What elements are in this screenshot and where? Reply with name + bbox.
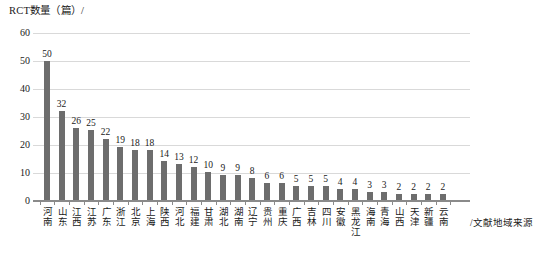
bar-slot[interactable]: 2 [406, 33, 421, 200]
bar[interactable] [323, 186, 329, 200]
bar[interactable] [161, 161, 167, 200]
bar[interactable] [249, 178, 255, 200]
bar-value-label: 2 [440, 182, 445, 192]
bar-slot[interactable]: 3 [362, 33, 377, 200]
y-axis-tick-label: 40 [2, 84, 30, 94]
bar[interactable] [220, 175, 226, 200]
bar-value-label: 3 [382, 180, 387, 190]
bar[interactable] [59, 111, 65, 200]
x-axis-tickmark [421, 201, 422, 205]
x-axis-category-label: 青海 [379, 207, 389, 227]
bar-slot[interactable]: 2 [436, 33, 451, 200]
x-axis-category-label: 北京 [130, 207, 140, 227]
x-axis-tickmark [113, 201, 114, 205]
bar-slot[interactable]: 4 [333, 33, 348, 200]
bar-value-label: 5 [309, 174, 314, 184]
x-axis-category-label: 山东 [57, 207, 67, 227]
bar-slot[interactable]: 8 [245, 33, 260, 200]
x-axis-tickmark [54, 201, 55, 205]
bar-slot[interactable]: 10 [201, 33, 216, 200]
bar[interactable] [205, 172, 211, 200]
bar[interactable] [279, 183, 285, 200]
x-axis-category-label: 上海 [145, 207, 155, 227]
bar-slot[interactable]: 5 [318, 33, 333, 200]
bar-slot[interactable]: 9 [216, 33, 231, 200]
bar-slot[interactable]: 50 [40, 33, 55, 200]
x-axis-tickmark [186, 201, 187, 205]
bar-slot[interactable]: 22 [98, 33, 113, 200]
bar[interactable] [381, 192, 387, 200]
bar[interactable] [176, 164, 182, 200]
bar-slot[interactable]: 18 [128, 33, 143, 200]
x-axis-tickmark [260, 201, 261, 205]
bar-slot[interactable]: 18 [142, 33, 157, 200]
bar-slot[interactable]: 5 [289, 33, 304, 200]
bar-slot[interactable]: 13 [172, 33, 187, 200]
bar[interactable] [117, 147, 123, 200]
bar-slot[interactable]: 32 [54, 33, 69, 200]
bar-slot[interactable]: 6 [260, 33, 275, 200]
bar[interactable] [367, 192, 373, 200]
y-axis-tick-label: 60 [2, 28, 30, 38]
x-axis-tickmark [450, 201, 451, 205]
bar-value-label: 9 [221, 163, 226, 173]
bar-slot[interactable]: 4 [348, 33, 363, 200]
bar[interactable] [235, 175, 241, 200]
x-axis-tickmark [318, 201, 319, 205]
bar-value-label: 2 [426, 182, 431, 192]
bar-chart-figure: RCT数量（篇）/ 0102030405060 5032262522191818… [0, 0, 547, 270]
bar-value-label: 2 [411, 182, 416, 192]
bar-slot[interactable]: 9 [230, 33, 245, 200]
x-axis-tickmark [362, 201, 363, 205]
x-axis-category-label: 海南 [365, 207, 375, 227]
bar[interactable] [308, 186, 314, 200]
x-axis-tickmark [40, 201, 41, 205]
bar[interactable] [44, 61, 50, 200]
bar[interactable] [191, 167, 197, 200]
bar-slot[interactable]: 25 [84, 33, 99, 200]
bar-slot[interactable]: 5 [304, 33, 319, 200]
x-axis-tickmark [230, 201, 231, 205]
x-axis-category-label: 安徽 [335, 207, 345, 227]
bar[interactable] [352, 189, 358, 200]
bar-slot[interactable]: 3 [377, 33, 392, 200]
x-axis-category-label: 天津 [409, 207, 419, 227]
plot-area: 5032262522191818141312109986655544332222 [33, 33, 470, 201]
x-axis-tickmarks [33, 201, 470, 206]
bar[interactable] [103, 139, 109, 200]
bar[interactable] [293, 186, 299, 200]
bar-value-label: 4 [338, 177, 343, 187]
bar-slot[interactable]: 2 [392, 33, 407, 200]
bar[interactable] [337, 189, 343, 200]
bar-value-label: 13 [174, 152, 184, 162]
bar-value-label: 4 [353, 177, 358, 187]
x-axis-tickmark [348, 201, 349, 205]
x-axis-category-label: 河北 [174, 207, 184, 227]
bar-slot[interactable]: 14 [157, 33, 172, 200]
bar[interactable] [264, 183, 270, 200]
x-axis-category-label: 广西 [291, 207, 301, 227]
x-axis-category-label: 江苏 [86, 207, 96, 227]
bar-slot[interactable]: 12 [186, 33, 201, 200]
x-axis-tickmark [436, 201, 437, 205]
x-axis-category-label: 福建 [189, 207, 199, 227]
bar-slot[interactable]: 6 [274, 33, 289, 200]
bar-value-label: 10 [203, 160, 213, 170]
y-axis-tick-label: 20 [2, 140, 30, 150]
x-axis-category-label: 重庆 [277, 207, 287, 227]
bar-value-label: 5 [323, 174, 328, 184]
bar-value-label: 9 [235, 163, 240, 173]
bar-value-label: 5 [294, 174, 299, 184]
bar-slot[interactable]: 19 [113, 33, 128, 200]
x-axis-category-label: 江西 [71, 207, 81, 227]
x-axis-category-label: 四川 [321, 207, 331, 227]
y-axis-tick-labels: 0102030405060 [0, 33, 30, 201]
bar[interactable] [73, 128, 79, 200]
bar-slot[interactable]: 26 [69, 33, 84, 200]
bar[interactable] [147, 150, 153, 200]
y-axis-tick-label: 30 [2, 112, 30, 122]
bar-slot[interactable]: 2 [421, 33, 436, 200]
x-axis-category-label: 新疆 [423, 207, 433, 227]
bar[interactable] [88, 130, 94, 200]
bar[interactable] [132, 150, 138, 200]
